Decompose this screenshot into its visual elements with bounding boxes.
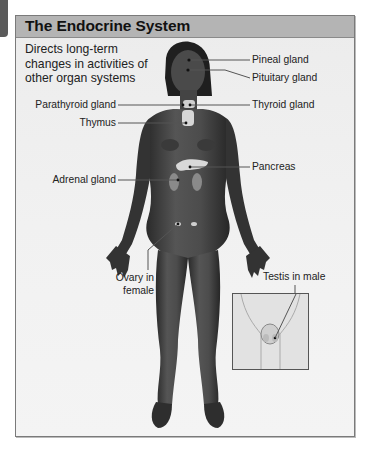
label-ovary-line1: Ovary in: [116, 272, 154, 284]
right-kidney-icon: [192, 173, 202, 191]
label-pancreas: Pancreas: [252, 161, 296, 173]
female-body-icon: [106, 42, 270, 428]
label-pineal-gland: Pineal gland: [252, 54, 309, 66]
label-adrenal-gland: Adrenal gland: [52, 174, 116, 186]
left-kidney-icon: [169, 173, 179, 191]
label-parathyroid-gland: Parathyroid gland: [35, 99, 116, 111]
thymus-icon: [182, 110, 194, 126]
human-figure-illustration: [0, 0, 371, 451]
male-testis-inset: [232, 293, 309, 370]
label-thymus: Thymus: [79, 117, 116, 129]
thyroid-gland-icon: [183, 100, 195, 108]
male-pelvis-icon: [233, 294, 308, 369]
label-testis: Testis in male: [263, 271, 325, 283]
label-thyroid-gland: Thyroid gland: [252, 99, 314, 111]
label-pituitary-gland: Pituitary gland: [252, 72, 317, 84]
label-ovary-line2: female: [123, 285, 154, 297]
